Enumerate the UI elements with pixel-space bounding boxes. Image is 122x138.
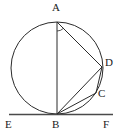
vertex-label-A: A (52, 2, 60, 13)
vertex-label-F: F (103, 119, 109, 130)
vertex-label-B: B (52, 119, 59, 130)
angle-mark-at-A (57, 28, 63, 31)
vertex-label-D: D (105, 57, 113, 68)
segment-AD-chord (57, 22, 102, 67)
vertex-label-C: C (98, 88, 105, 99)
vertex-label-E: E (5, 119, 12, 130)
segment-BC-chord (57, 93, 96, 114)
segment-BD-chord (57, 67, 102, 114)
geometry-figure: A B C D E F (0, 0, 122, 138)
